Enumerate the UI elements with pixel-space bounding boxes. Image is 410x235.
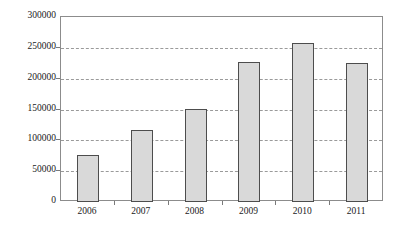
gridline-250000 bbox=[61, 48, 382, 49]
bar-2008 bbox=[185, 109, 207, 202]
x-axis-tick-label: 2007 bbox=[114, 207, 168, 217]
gridline-200000 bbox=[61, 79, 382, 80]
bar-chart: 050000100000150000200000250000300000 200… bbox=[0, 0, 410, 235]
y-axis-tick-label: 100000 bbox=[4, 135, 56, 145]
x-axis-tick-mark bbox=[222, 201, 223, 205]
y-axis-tick-label: 50000 bbox=[4, 165, 56, 175]
x-axis-tick-label: 2010 bbox=[275, 207, 329, 217]
gridline-100000 bbox=[61, 140, 382, 141]
x-axis-tick-mark bbox=[168, 201, 169, 205]
gridline-50000 bbox=[61, 171, 382, 172]
gridline-150000 bbox=[61, 110, 382, 111]
y-axis-tick-label: 300000 bbox=[4, 11, 56, 21]
y-axis-tick-label: 200000 bbox=[4, 73, 56, 83]
bar-2006 bbox=[77, 155, 99, 202]
x-axis-tick-mark bbox=[275, 201, 276, 205]
y-axis-tick-label: 0 bbox=[4, 196, 56, 206]
y-axis-tick-label: 250000 bbox=[4, 42, 56, 52]
x-axis-tick-mark bbox=[114, 201, 115, 205]
x-axis-tick-label: 2009 bbox=[221, 207, 275, 217]
bar-2007 bbox=[131, 130, 153, 202]
x-axis-tick-label: 2011 bbox=[329, 207, 383, 217]
bar-2009 bbox=[238, 62, 260, 202]
bar-2010 bbox=[292, 43, 314, 202]
y-axis-tick-label: 150000 bbox=[4, 104, 56, 114]
x-axis-tick-mark bbox=[329, 201, 330, 205]
x-axis-tick-label: 2008 bbox=[168, 207, 222, 217]
plot-area bbox=[60, 16, 383, 201]
x-axis-tick-label: 2006 bbox=[60, 207, 114, 217]
bar-2011 bbox=[346, 63, 368, 202]
